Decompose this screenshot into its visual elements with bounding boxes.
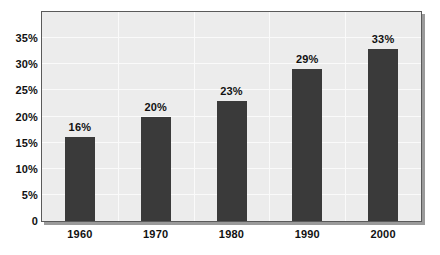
- gridline-vertical: [118, 12, 119, 221]
- bar-chart: 16%20%23%29%33% 05%10%15%20%25%30%35% 19…: [0, 0, 440, 255]
- x-axis-tick-label: 1980: [197, 228, 267, 240]
- bar: [141, 117, 171, 222]
- y-axis-tick-label: 35%: [2, 32, 38, 44]
- y-axis-tick-label: 20%: [2, 111, 38, 123]
- y-axis-tick-label: 0: [2, 215, 38, 227]
- bar-value-label: 20%: [126, 101, 186, 113]
- gridline-vertical: [269, 12, 270, 221]
- y-axis-tick-label: 15%: [2, 137, 38, 149]
- y-axis-tick-label: 10%: [2, 163, 38, 175]
- x-axis-tick-label: 1970: [121, 228, 191, 240]
- x-axis-tick-label: 1990: [272, 228, 342, 240]
- bar: [217, 101, 247, 221]
- bar: [65, 137, 95, 221]
- bar: [292, 69, 322, 221]
- bar-value-label: 16%: [50, 121, 110, 133]
- gridline-vertical: [345, 12, 346, 221]
- y-axis: 05%10%15%20%25%30%35%: [0, 0, 38, 255]
- bar-value-label: 23%: [202, 85, 262, 97]
- bar-value-label: 33%: [353, 33, 413, 45]
- y-axis-tick-label: 30%: [2, 58, 38, 70]
- gridline-vertical: [194, 12, 195, 221]
- y-axis-tick-label: 5%: [2, 189, 38, 201]
- gridline-horizontal: [42, 63, 421, 64]
- bar-value-label: 29%: [277, 53, 337, 65]
- y-axis-tick-label: 25%: [2, 84, 38, 96]
- bar: [368, 49, 398, 221]
- x-axis-tick-label: 2000: [348, 228, 418, 240]
- x-axis-tick-label: 1960: [45, 228, 115, 240]
